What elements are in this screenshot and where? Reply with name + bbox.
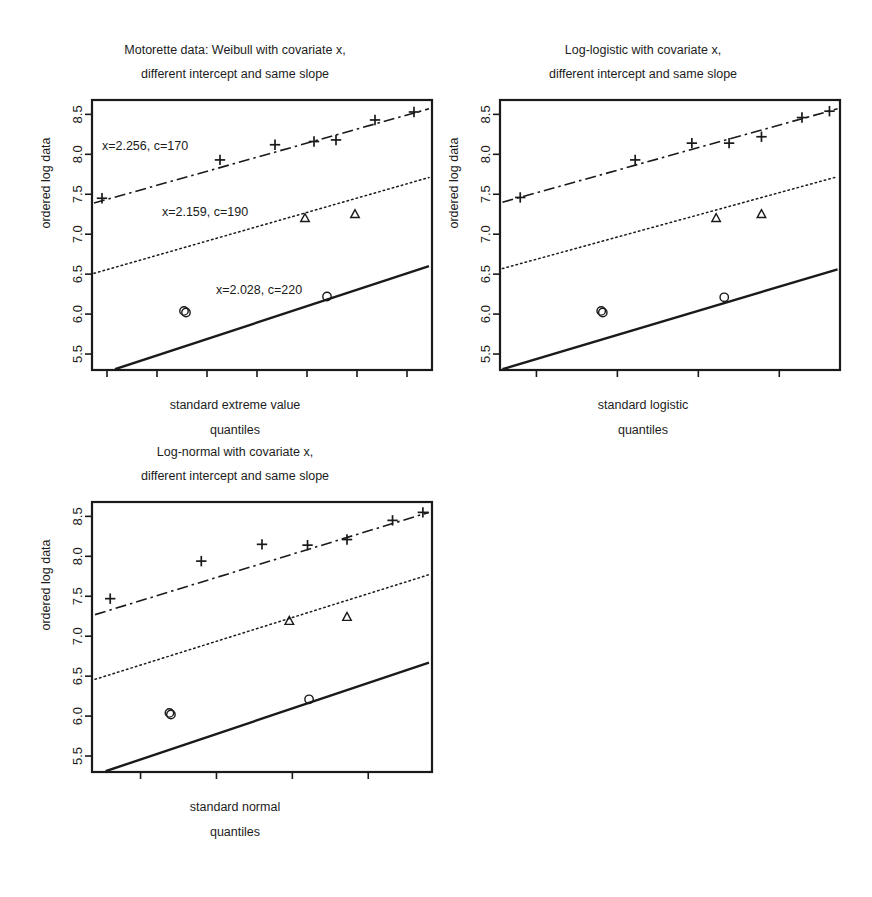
y-tick-label: 5.5 — [478, 345, 493, 363]
plot-annotation: x=2.256, c=170 — [102, 139, 188, 153]
fit-line-solid — [106, 663, 429, 772]
panel-loglogistic-plot: 5.56.06.57.07.58.08.5-3-2-10 — [428, 38, 858, 378]
plot-frame — [500, 100, 840, 370]
panel-weibull-plot: 5.56.06.57.07.58.08.5-3.0-2.5-2.0-1.5-1.… — [20, 38, 450, 378]
fit-line-dotted — [95, 575, 429, 680]
y-tick-label: 7.5 — [70, 587, 85, 605]
y-tick-label: 6.0 — [478, 305, 493, 323]
y-tick-label: 5.5 — [70, 345, 85, 363]
plot-annotation: x=2.159, c=190 — [162, 205, 248, 219]
fit-line-dashdot — [502, 109, 837, 202]
panel-loglogistic-ylabel: ordered log data — [442, 63, 467, 303]
y-tick-label: 8.5 — [478, 105, 493, 123]
y-tick-label: 6.0 — [70, 305, 85, 323]
marker-circle — [720, 293, 728, 301]
y-tick-label: 7.5 — [70, 185, 85, 203]
figure-root: Motorette data: Weibull with covariate x… — [0, 0, 872, 897]
panel-lognormal-plot: 5.56.06.57.07.58.08.5-1.5-1.0-0.50.0 — [20, 440, 450, 780]
fit-line-dashdot — [94, 109, 429, 203]
y-tick-label: 6.5 — [70, 667, 85, 685]
panel-weibull: Motorette data: Weibull with covariate x… — [20, 38, 450, 438]
panel-lognormal: Log-normal with covariate x, different i… — [20, 440, 450, 840]
marker-triangle — [757, 210, 766, 218]
y-tick-label: 5.5 — [70, 747, 85, 765]
fit-line-solid — [115, 266, 429, 369]
y-tick-label: 7.0 — [70, 225, 85, 243]
marker-triangle — [301, 214, 310, 222]
panel-lognormal-xlabel-line1: standard normal — [20, 795, 450, 820]
y-tick-label: 7.0 — [70, 627, 85, 645]
y-tick-label: 7.5 — [478, 185, 493, 203]
panel-loglogistic-xlabel-line1: standard logistic — [428, 393, 858, 418]
series-layer — [95, 507, 429, 771]
y-tick-label: 8.5 — [70, 105, 85, 123]
panel-weibull-xlabel-line1: standard extreme value — [20, 393, 450, 418]
marker-triangle — [343, 612, 352, 620]
fit-line-dotted — [502, 177, 837, 269]
marker-triangle — [712, 214, 721, 222]
y-tick-label: 7.0 — [478, 225, 493, 243]
y-tick-label: 8.0 — [70, 145, 85, 163]
fit-line-dashdot — [95, 512, 429, 614]
marker-triangle — [351, 210, 360, 218]
panel-loglogistic: Log-logistic with covariate x, different… — [428, 38, 858, 438]
y-tick-label: 6.0 — [70, 707, 85, 725]
y-tick-label: 6.5 — [70, 265, 85, 283]
series-layer — [502, 106, 837, 369]
y-tick-label: 8.0 — [478, 145, 493, 163]
fit-line-solid — [502, 269, 837, 369]
panel-loglogistic-xlabel-line2: quantiles — [428, 418, 858, 443]
panel-lognormal-xlabel-line2: quantiles — [20, 820, 450, 845]
y-tick-label: 8.5 — [70, 507, 85, 525]
marker-circle — [180, 307, 188, 315]
fit-line-dotted — [94, 177, 429, 273]
y-tick-label: 8.0 — [70, 547, 85, 565]
y-tick-label: 6.5 — [478, 265, 493, 283]
panel-lognormal-ylabel: ordered log data — [34, 465, 59, 705]
panel-weibull-ylabel: ordered log data — [34, 63, 59, 303]
plot-annotation: x=2.028, c=220 — [216, 283, 302, 297]
